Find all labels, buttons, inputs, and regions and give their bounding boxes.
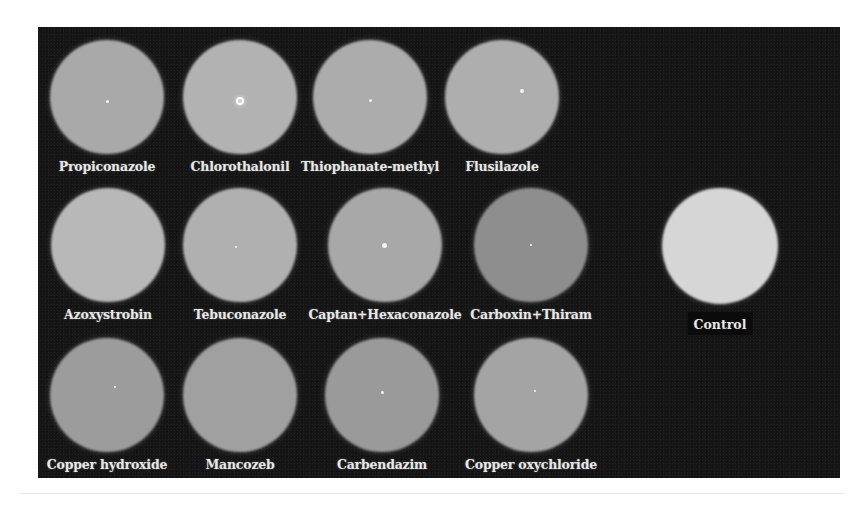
plate-label: Copper hydroxide (47, 457, 167, 472)
inoculum-dot (534, 390, 536, 392)
inoculum-dot (520, 89, 524, 93)
plate-label: Control (694, 317, 747, 332)
inoculum-dot (369, 99, 372, 102)
plate-label: Chlorothalonil (191, 159, 290, 174)
plate-copper-hydroxide (50, 338, 164, 452)
inoculum-dot (114, 386, 116, 388)
plate-tebuconazole (183, 188, 297, 302)
plate-copper-oxychloride (474, 338, 588, 452)
plate-thiophanate-methyl (313, 40, 427, 154)
inoculum-dot (235, 246, 237, 248)
plate-label: Flusilazole (465, 159, 538, 174)
plate-carbendazim (325, 338, 439, 452)
plate-control (662, 188, 778, 304)
plate-label: Carboxin+Thiram (470, 307, 592, 322)
plate-label: Captan+Hexaconazole (308, 307, 461, 322)
plate-azoxystrobin (51, 188, 165, 302)
control-label-box: Control (688, 312, 753, 335)
inoculum-dot (381, 391, 384, 394)
plate-label: Mancozeb (205, 457, 274, 472)
inoculum-dot (530, 244, 532, 246)
plate-mancozeb (183, 338, 297, 452)
plate-label: Tebuconazole (194, 307, 287, 322)
plate-label: Propiconazole (59, 159, 156, 174)
plate-label: Carbendazim (337, 457, 427, 472)
bottom-rule (20, 493, 844, 494)
plate-flusilazole (445, 40, 559, 154)
plate-propiconazole (50, 40, 164, 154)
inoculum-dot (106, 100, 109, 103)
inoculum-dot (382, 243, 387, 248)
inoculum-dot (236, 97, 244, 105)
plate-label: Azoxystrobin (64, 307, 152, 322)
plate-label: Copper oxychloride (465, 457, 597, 472)
plate-label: Thiophanate-methyl (301, 159, 439, 174)
